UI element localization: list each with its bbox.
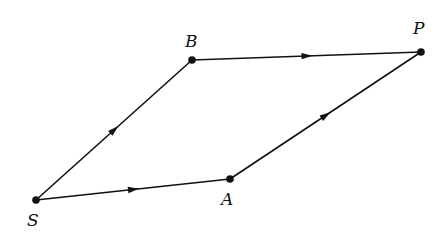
arrow-icon (301, 53, 312, 60)
point-S (32, 196, 40, 204)
label-P: P (412, 18, 425, 38)
label-A: A (219, 189, 233, 209)
label-S: S (27, 210, 39, 230)
point-B (188, 56, 196, 64)
point-A (226, 175, 234, 183)
label-B: B (184, 31, 198, 51)
point-P (417, 48, 425, 56)
parallelogram-diagram: SABP (0, 0, 444, 235)
diagram-canvas: SABP (0, 0, 444, 235)
arrow-icon (320, 110, 333, 121)
